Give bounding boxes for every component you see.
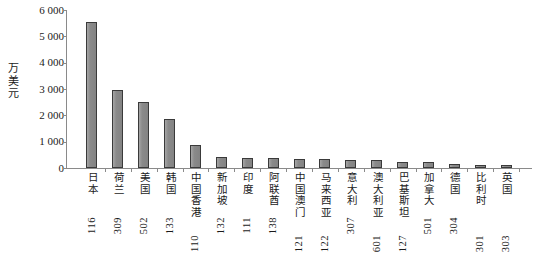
x-axis-category-name: 日本	[86, 172, 98, 195]
bar	[475, 165, 486, 168]
x-axis-category-name: 比利时	[474, 172, 486, 207]
bar	[242, 158, 253, 168]
y-axis-tick-mark	[63, 10, 67, 11]
x-axis-category-name: 阿联酋	[267, 172, 279, 207]
bar	[294, 159, 305, 168]
x-axis-category: 比利时	[474, 172, 486, 207]
x-axis-category-name: 澳大利亚	[371, 172, 383, 218]
x-axis-category-code: 110	[189, 235, 201, 252]
y-axis-tick-mark	[63, 89, 67, 90]
x-axis-category: 英国	[500, 172, 512, 195]
x-axis-category-name: 中国澳门	[293, 172, 305, 218]
x-axis-category-code: 127	[397, 235, 409, 252]
bar	[112, 90, 123, 168]
x-axis-category-name: 加拿大	[422, 172, 434, 207]
bar	[397, 162, 408, 168]
y-axis-tick-label: 6 000	[39, 5, 64, 16]
x-axis-line	[66, 168, 532, 169]
y-axis-tick-mark	[63, 115, 67, 116]
x-axis-category-code: 301	[474, 235, 486, 252]
x-axis-category: 澳大利亚	[371, 172, 383, 218]
x-axis-category-name: 荷兰	[112, 172, 124, 195]
x-axis-category: 韩国	[164, 172, 176, 195]
x-axis-category: 意大利	[345, 172, 357, 207]
x-axis-category: 巴基斯坦	[397, 172, 409, 218]
x-axis-category-code: 122	[319, 235, 331, 252]
x-axis-category-name: 马来西亚	[319, 172, 331, 218]
x-axis-category-name: 美国	[138, 172, 150, 195]
bar	[449, 164, 460, 168]
x-axis-category-code: 307	[345, 217, 357, 234]
plot-area	[66, 10, 532, 168]
x-axis-category: 日本	[86, 172, 98, 195]
x-axis-category-code: 121	[293, 235, 305, 252]
bar	[423, 162, 434, 168]
bar	[501, 165, 512, 168]
x-axis-category-code: 111	[241, 217, 253, 233]
x-axis-category-code: 133	[164, 217, 176, 234]
x-axis-category: 中国香港	[189, 172, 201, 218]
y-axis-tick-label: 3 000	[39, 84, 64, 95]
y-axis-tick-mark	[63, 142, 67, 143]
bar	[138, 102, 149, 168]
x-axis-category-code: 138	[267, 217, 279, 234]
x-axis-category: 阿联酋	[267, 172, 279, 207]
y-axis-title-char-0: 万	[6, 62, 20, 75]
bar	[164, 119, 175, 168]
x-axis-category-name: 意大利	[345, 172, 357, 207]
x-axis-category-code: 501	[422, 217, 434, 234]
x-axis-category: 新加坡	[215, 172, 227, 207]
x-axis-category: 马来西亚	[319, 172, 331, 218]
y-axis-tick-label: 2 000	[39, 110, 64, 121]
x-axis-category-code: 309	[112, 217, 124, 234]
bar	[216, 157, 227, 168]
y-axis-title: 万 美 元	[6, 62, 20, 100]
bar	[268, 158, 279, 168]
y-axis-title-char-1: 美	[6, 75, 20, 88]
y-axis-title-char-2: 元	[6, 87, 20, 100]
x-axis-category-name: 英国	[500, 172, 512, 195]
x-axis-category-code: 132	[215, 217, 227, 234]
x-axis-category-name: 中国香港	[189, 172, 201, 218]
x-axis-category-name: 德国	[448, 172, 460, 195]
bar	[86, 22, 97, 168]
x-axis-category-code: 601	[371, 235, 383, 252]
x-axis-category-labels: 日本116荷兰309美国502韩国133中国香港110新加坡132印度111阿联…	[66, 172, 532, 272]
y-axis-tick-label: 4 000	[39, 57, 64, 68]
y-axis-tick-mark	[63, 36, 67, 37]
x-axis-category-code: 502	[138, 217, 150, 234]
bar	[190, 145, 201, 168]
bar	[371, 160, 382, 168]
bar	[319, 159, 330, 168]
x-axis-category-name: 新加坡	[215, 172, 227, 207]
x-axis-category-code: 116	[86, 217, 98, 234]
y-axis-tick-label: 1 000	[39, 136, 64, 147]
y-axis-tick-mark	[63, 63, 67, 64]
x-axis-category-code: 304	[448, 217, 460, 234]
bar	[345, 160, 356, 168]
x-axis-category: 加拿大	[422, 172, 434, 207]
x-axis-category: 中国澳门	[293, 172, 305, 218]
bar-chart: 万 美 元 6 0005 0004 0003 0002 0001 0000 日本…	[0, 0, 539, 272]
x-axis-category-code: 303	[500, 235, 512, 252]
x-axis-category-name: 韩国	[164, 172, 176, 195]
x-axis-category: 德国	[448, 172, 460, 195]
y-axis-tick-mark	[63, 168, 67, 169]
x-axis-category: 印度	[241, 172, 253, 195]
x-axis-category-name: 巴基斯坦	[397, 172, 409, 218]
x-axis-category: 美国	[138, 172, 150, 195]
x-axis-category-name: 印度	[241, 172, 253, 195]
y-axis-tick-labels: 6 0005 0004 0003 0002 0001 0000	[20, 0, 64, 180]
y-axis-tick-label: 5 000	[39, 31, 64, 42]
x-axis-category: 荷兰	[112, 172, 124, 195]
